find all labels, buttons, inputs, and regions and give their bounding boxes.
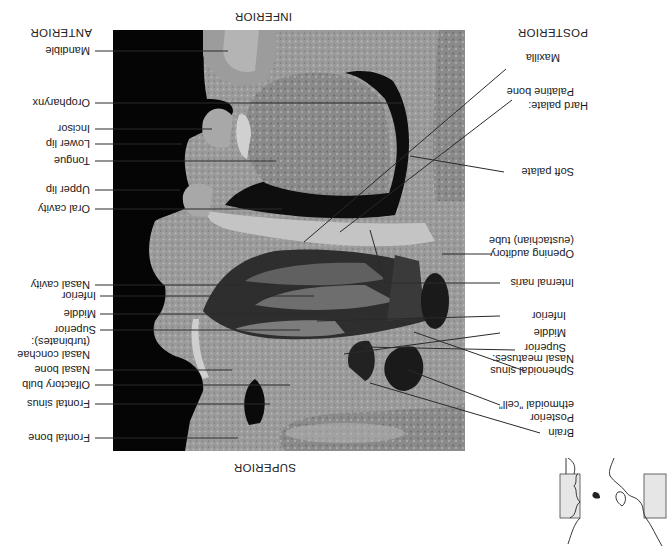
label-meatus-inferior: Inferior xyxy=(532,310,566,322)
inset-ear xyxy=(616,492,626,506)
label-posterior-ethmoidal-line1: Posterior xyxy=(530,412,574,424)
label-mandible: Mandible xyxy=(45,45,90,57)
label-incisor: Incisor xyxy=(58,123,90,135)
orientation-posterior: POSTERIOR xyxy=(518,27,588,39)
label-oral-cavity: Oral cavity xyxy=(38,203,90,215)
label-meatus-middle: Middle xyxy=(534,327,566,339)
orientation-superior: SUPERIOR xyxy=(234,462,296,474)
label-frontal-sinus: Frontal sinus xyxy=(27,398,90,410)
orientation-inset-diagram xyxy=(558,458,670,546)
label-nasal-conchae-subheading: (turbinates): xyxy=(31,336,90,348)
label-auditory-tube-line1: Opening auditory xyxy=(490,248,574,260)
label-olfactory-bulb: Olfactory bulb xyxy=(22,379,90,391)
inset-eye xyxy=(592,492,600,499)
label-posterior-ethmoidal-line2: ethmoidal "cell" xyxy=(499,399,574,411)
label-palatine-bone: Palatine bone xyxy=(507,86,574,98)
inset-shaded-region-left xyxy=(644,474,666,518)
label-soft-palate: Soft palate xyxy=(521,166,574,178)
label-nasal-conchae-heading: Nasal conchae xyxy=(17,349,90,361)
sagittal-section-photo xyxy=(113,30,465,451)
label-lower-lip: Lower lip xyxy=(46,138,90,150)
label-brain: Brain xyxy=(548,427,574,439)
label-concha-superior: Superior xyxy=(54,324,96,336)
orientation-anterior: ANTERIOR xyxy=(30,27,92,39)
label-concha-inferior: Inferior xyxy=(62,290,96,302)
label-sphenoidal-sinus: Sphenoidal sinus xyxy=(490,365,574,377)
orientation-inferior: INFERIOR xyxy=(235,11,292,23)
label-maxilla: Maxilla xyxy=(526,52,560,64)
label-internal-naris: Internal naris xyxy=(510,277,574,289)
label-nasal-cavity: Nasal cavity xyxy=(31,279,90,291)
label-oropharynx: Oropharynx xyxy=(33,97,90,109)
figure-canvas: SUPERIOR INFERIOR POSTERIOR ANTERIOR xyxy=(0,0,670,546)
label-nasal-bone: Nasal bone xyxy=(34,364,90,376)
label-nasal-meatuses-heading: Nasal meatuses: xyxy=(492,353,574,365)
label-tongue: Tongue xyxy=(54,155,90,167)
label-frontal-bone: Frontal bone xyxy=(28,432,90,444)
label-concha-middle: Middle xyxy=(64,308,96,320)
label-hard-palate-heading: Hard palate: xyxy=(528,100,588,112)
label-meatus-superior: Superior xyxy=(524,342,566,354)
label-upper-lip: Upper lip xyxy=(46,184,90,196)
label-auditory-tube-line2: (eustachian) tube xyxy=(489,235,574,247)
photo-illustration xyxy=(113,30,465,451)
